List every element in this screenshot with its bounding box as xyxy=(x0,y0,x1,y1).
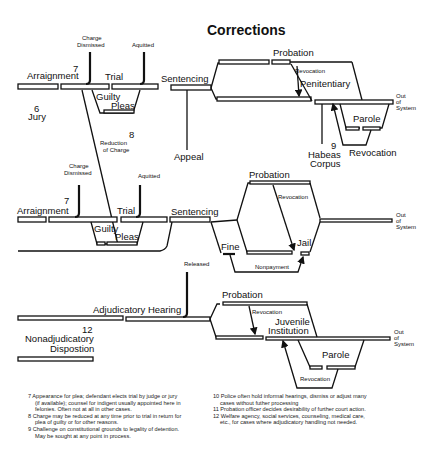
pipe-entry-3 xyxy=(18,316,123,320)
label-probation: Probation xyxy=(273,47,314,58)
charge-dismissed-branch xyxy=(86,52,90,84)
label-of-charge: of Charge xyxy=(103,147,130,153)
parole-left-3 xyxy=(298,340,322,367)
pipe-probation-2 xyxy=(272,60,290,64)
label-trial-2: Trial xyxy=(117,205,135,216)
note-10: 10 Police often hold informal hearings, … xyxy=(213,393,373,406)
label-acquitted-2: Aquitted xyxy=(138,173,160,179)
branch-to-institution xyxy=(210,319,263,337)
label-reduction-num: 8 xyxy=(129,129,134,140)
pipe-institution-a xyxy=(216,336,263,339)
label-parole: Parole xyxy=(353,113,380,124)
note-12: 12 Welfare agency, social services, coun… xyxy=(213,413,373,426)
label-parole-3: Parole xyxy=(322,349,349,360)
notes-right: 10 Police often hold informal hearings, … xyxy=(213,393,373,426)
pipe-parole-3a xyxy=(310,366,322,369)
pipe-arraignment-2 xyxy=(49,217,117,222)
label-dismissed-2: Dismissed xyxy=(64,170,92,176)
branch-to-probation-3 xyxy=(210,304,220,319)
pipe-parole-a xyxy=(346,127,359,130)
jail-to-out xyxy=(310,222,320,252)
pipe-jail-b xyxy=(301,252,309,255)
pipe-nonadjudicatory xyxy=(18,357,93,361)
label-appeal: Appeal xyxy=(174,151,204,162)
branch-to-jail xyxy=(237,220,292,252)
label-corpus: Corpus xyxy=(310,158,341,169)
pipe-sentencing xyxy=(171,85,211,90)
notes-left: 7 Appearance for plea; defendant elects … xyxy=(28,393,183,439)
label-parole-revocation: Revocation xyxy=(349,147,397,158)
pipe-pleas-b xyxy=(107,242,137,245)
pipe-out xyxy=(315,100,393,104)
label-arraignment-2: Arraignment xyxy=(17,205,69,216)
label-system-2: System xyxy=(396,224,416,230)
branch-to-fine xyxy=(211,222,221,253)
released-branch xyxy=(183,272,187,317)
label-fine: Fine xyxy=(221,241,239,252)
page-title: Corrections xyxy=(207,22,286,38)
pipe-penitentiary xyxy=(217,97,311,101)
label-dismissed: Dismissed xyxy=(77,42,105,48)
pipe-entry-2 xyxy=(18,217,46,222)
acquitted-branch xyxy=(140,52,144,84)
note-8: 8 Charge may be reduced at any time prio… xyxy=(28,413,183,426)
pipe-out-2 xyxy=(320,219,392,222)
note-7: 7 Appearance for plea; defendant elects … xyxy=(28,393,183,413)
parole-revocation-loop xyxy=(333,104,371,145)
label-revocation: Revocation xyxy=(295,68,325,74)
label-penitentiary: Penitentiary xyxy=(300,78,350,89)
pipe-probation xyxy=(219,60,269,64)
branch-to-probation xyxy=(211,63,268,88)
label-acquitted: Aquitted xyxy=(132,42,154,48)
label-sentencing-2: Sentencing xyxy=(171,206,219,217)
label-institution: Institution xyxy=(268,325,309,336)
probation-to-out-2 xyxy=(310,183,320,218)
label-note-7: 7 xyxy=(73,63,78,74)
label-disposition: Dispostion xyxy=(50,343,94,354)
pipe-trial-2 xyxy=(121,217,167,222)
pipe-parole-3b xyxy=(327,366,355,369)
label-nonpayment: Nonpayment xyxy=(255,264,289,270)
label-charge-2: Charge xyxy=(69,163,89,169)
pipe-probation-2b xyxy=(250,181,310,184)
probation-to-out xyxy=(352,62,362,100)
juvenile-track: Released Adjudicatory Hearing 12 Nonadju… xyxy=(18,261,414,388)
label-adjudicatory-hearing: Adjudicatory Hearing xyxy=(93,304,181,315)
pipe-entry xyxy=(18,84,58,89)
label-released: Released xyxy=(184,261,209,267)
label-system-3: System xyxy=(394,341,414,347)
label-parole-revocation-3: Revocation xyxy=(300,376,330,382)
label-note-7-2: 7 xyxy=(64,195,69,206)
note-11: 11 Probation officer decides desirabilit… xyxy=(213,406,373,413)
label-sentencing: Sentencing xyxy=(161,73,209,84)
pipe-out-3 xyxy=(266,337,390,340)
pipe-parole-b xyxy=(363,127,380,130)
misdemeanor-track: Arraignment 7 Charge Dismissed Trial Aqu… xyxy=(17,163,416,272)
label-jail: Jail xyxy=(297,237,311,248)
acquitted-branch-2 xyxy=(136,185,140,217)
label-probation-3: Probation xyxy=(222,289,263,300)
sentencing-joint xyxy=(211,220,237,222)
label-revocation-3: Revocation xyxy=(252,309,282,315)
label-arraignment: Arraignment xyxy=(27,70,79,81)
pipe-adjudicatory xyxy=(126,317,210,321)
label-reduction: Reduction xyxy=(100,140,127,146)
label-jury: Jury xyxy=(28,111,46,122)
label-pleas: Pleas xyxy=(111,100,135,111)
pipe-sentencing-2 xyxy=(170,217,210,222)
pipe-jail xyxy=(247,251,292,254)
label-probation-2: Probation xyxy=(249,169,290,180)
label-charge: Charge xyxy=(82,35,102,41)
label-revocation-2: Revocation xyxy=(278,194,308,200)
pipe-trial xyxy=(112,84,158,89)
pipe-probation-3 xyxy=(223,302,307,305)
label-trial: Trial xyxy=(105,71,123,82)
note-9: 9 Challenge on constitutional grounds to… xyxy=(28,426,183,439)
label-system: System xyxy=(396,105,416,111)
charge-dismissed-branch-2 xyxy=(75,185,79,217)
pipe-arraignment xyxy=(61,84,109,89)
pipe-pleas-a xyxy=(97,242,105,245)
label-pleas-2: Pleas xyxy=(115,231,139,242)
